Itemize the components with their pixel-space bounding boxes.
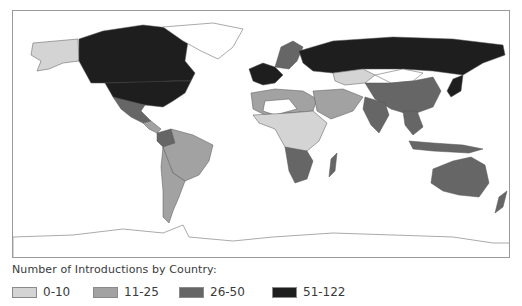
region-alaska [31, 39, 79, 71]
region-southeast-asia [403, 111, 423, 135]
region-scandinavia [275, 41, 303, 69]
legend-label: 51-122 [303, 285, 346, 299]
legend-swatch [12, 287, 37, 298]
region-southern-africa [285, 147, 313, 183]
region-australia [431, 157, 489, 197]
legend-swatch [272, 287, 297, 298]
legend-item-26-50: 26-50 [179, 283, 245, 301]
legend-label: 0-10 [43, 285, 70, 299]
legend: 0-10 11-25 26-50 51-122 [12, 283, 512, 301]
region-antarctica [13, 225, 510, 258]
legend-item-51-122: 51-122 [272, 283, 346, 301]
region-new-zealand [495, 191, 507, 213]
legend-label: 26-50 [210, 285, 245, 299]
legend-title: Number of Introductions by Country: [12, 263, 217, 276]
choropleth-map [13, 11, 510, 258]
region-indonesia [409, 141, 483, 153]
world-map [12, 10, 510, 258]
region-madagascar [329, 153, 337, 177]
legend-item-0-10: 0-10 [12, 283, 70, 301]
legend-label: 11-25 [124, 285, 159, 299]
legend-item-11-25: 11-25 [93, 283, 159, 301]
region-central-america [143, 121, 161, 133]
region-japan [447, 75, 463, 97]
region-middle-east [313, 89, 363, 119]
legend-swatch [93, 287, 118, 298]
legend-swatch [179, 287, 204, 298]
